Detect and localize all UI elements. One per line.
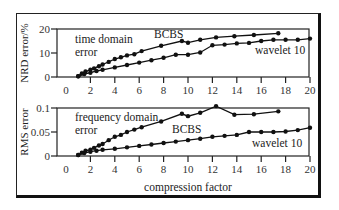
x-tick-label: 6: [136, 163, 142, 175]
data-point: [174, 139, 178, 143]
data-point: [161, 141, 165, 145]
data-point: [137, 144, 141, 148]
data-point: [210, 135, 214, 139]
y-axis-label: NRD error/%: [18, 23, 30, 83]
data-point: [113, 135, 117, 139]
x-axis-label: compression factor: [144, 181, 232, 194]
data-point: [180, 112, 184, 116]
x-tick-label: 20: [305, 163, 317, 175]
data-point: [107, 60, 111, 64]
data-point: [119, 55, 123, 59]
data-point: [132, 127, 136, 131]
data-point: [232, 34, 236, 38]
data-point: [149, 58, 153, 62]
data-point: [137, 60, 141, 64]
data-point: [100, 142, 104, 146]
data-point: [113, 65, 117, 69]
x-tick-label: 12: [207, 163, 218, 175]
x-tick-label: 8: [161, 163, 167, 175]
y-tick-label: 20: [39, 23, 51, 35]
data-point: [235, 133, 239, 137]
data-point: [296, 38, 300, 42]
x-tick-label: 2: [88, 163, 94, 175]
annotation-text: error: [75, 124, 98, 136]
y-tick-label: 0: [45, 71, 51, 83]
data-point: [186, 114, 190, 118]
data-point: [107, 138, 111, 142]
data-point: [82, 151, 86, 155]
x-tick-label: 0: [63, 84, 69, 96]
data-point: [125, 63, 129, 67]
data-point: [159, 119, 163, 123]
data-point: [296, 128, 300, 132]
data-point: [139, 125, 143, 129]
data-point: [252, 33, 256, 37]
data-point: [214, 104, 218, 108]
x-tick-label: 14: [231, 163, 243, 175]
data-point: [308, 36, 312, 40]
data-point: [198, 50, 202, 54]
data-point: [76, 74, 80, 78]
data-point: [125, 53, 129, 57]
y-axis-label: RMS error: [18, 108, 30, 156]
annotation-text: frequency domain: [75, 111, 159, 124]
x-tick-label: 16: [256, 163, 268, 175]
data-point: [76, 153, 80, 157]
data-point: [100, 148, 104, 152]
data-point: [235, 41, 239, 45]
data-point: [113, 57, 117, 61]
data-point: [161, 56, 165, 60]
data-point: [159, 44, 163, 48]
data-point: [214, 35, 218, 39]
annotation-text: time domain: [75, 33, 133, 45]
data-point: [276, 109, 280, 113]
data-point: [259, 130, 263, 134]
x-tick-label: 12: [207, 84, 218, 96]
y-tick-label: 0.05: [31, 126, 51, 138]
figure: 0102002468101214161820NRD error/%time do…: [0, 0, 339, 210]
data-point: [100, 62, 104, 66]
data-point: [252, 112, 256, 116]
data-point: [186, 138, 190, 142]
x-tick-label: 4: [112, 163, 118, 175]
series-label: wavelet 10: [255, 44, 305, 56]
x-tick-label: 6: [136, 84, 142, 96]
data-point: [210, 43, 214, 47]
data-point: [125, 145, 129, 149]
x-tick-label: 10: [183, 163, 195, 175]
x-tick-label: 8: [161, 84, 167, 96]
data-point: [139, 49, 143, 53]
series-label: BCBS: [154, 28, 183, 40]
data-point: [132, 52, 136, 56]
data-point: [232, 113, 236, 117]
data-point: [149, 142, 153, 146]
data-point: [113, 147, 117, 151]
y-tick-label: 0: [45, 150, 51, 162]
y-tick-label: 0.1: [36, 102, 50, 114]
data-point: [198, 137, 202, 141]
data-point: [222, 134, 226, 138]
x-tick-label: 14: [231, 84, 243, 96]
series-label: BCBS: [172, 123, 201, 135]
data-point: [100, 68, 104, 72]
data-point: [174, 52, 178, 56]
data-point: [271, 130, 275, 134]
annotation-text: error: [75, 46, 98, 58]
x-tick-label: 20: [305, 84, 317, 96]
x-tick-label: 16: [256, 84, 268, 96]
y-tick-label: 10: [39, 47, 51, 59]
data-point: [119, 133, 123, 137]
series-label: wavelet 10: [252, 137, 302, 149]
data-point: [82, 72, 86, 76]
x-tick-label: 18: [280, 84, 292, 96]
data-point: [94, 149, 98, 153]
data-point: [198, 38, 202, 42]
data-point: [247, 41, 251, 45]
x-tick-label: 18: [280, 163, 292, 175]
data-point: [88, 70, 92, 74]
data-point: [198, 111, 202, 115]
x-tick-label: 4: [112, 84, 118, 96]
data-point: [88, 149, 92, 153]
data-point: [276, 31, 280, 35]
data-point: [186, 52, 190, 56]
